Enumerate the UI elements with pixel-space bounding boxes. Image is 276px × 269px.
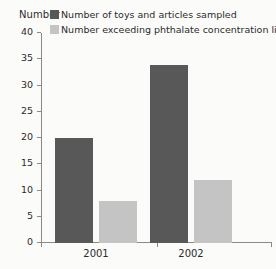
y-tick-label: 10 — [21, 184, 33, 195]
y-tick: 25 — [37, 111, 41, 112]
x-axis-label-2002: 2002 — [171, 248, 211, 259]
legend-label-sampled: Number of toys and articles sampled — [61, 9, 237, 20]
y-tick-label: 15 — [21, 157, 33, 168]
y-tick-label: 5 — [27, 210, 33, 221]
y-tick: 20 — [37, 137, 41, 138]
y-tick-label: 25 — [21, 105, 33, 116]
y-tick-label: 20 — [21, 131, 33, 142]
y-tick-label: 35 — [21, 52, 33, 63]
bar-chart: Number Number of toys and articles sampl… — [0, 0, 276, 269]
bar-2002-series2 — [194, 180, 232, 243]
x-tick — [157, 243, 158, 247]
chart-legend: Number of toys and articles sampled Numb… — [50, 8, 276, 35]
y-tick-label: 30 — [21, 79, 33, 90]
legend-item-sampled: Number of toys and articles sampled — [50, 8, 276, 20]
y-tick: 15 — [37, 163, 41, 164]
x-tick — [41, 243, 42, 247]
y-tick: 35 — [37, 58, 41, 59]
y-axis-line — [41, 33, 42, 243]
legend-swatch-dark-icon — [50, 10, 59, 19]
x-tick — [271, 243, 272, 247]
bar-2002-series1 — [150, 65, 188, 244]
y-tick: 40 — [37, 32, 41, 33]
y-tick: 10 — [37, 190, 41, 191]
bar-2001-series1 — [55, 138, 93, 243]
y-tick: 5 — [37, 216, 41, 217]
plot-area: 0510152025303540 — [41, 33, 272, 243]
y-tick: 30 — [37, 85, 41, 86]
x-axis-label-2001: 2001 — [76, 248, 116, 259]
y-tick-label: 40 — [21, 26, 33, 37]
y-tick-label: 0 — [27, 236, 33, 247]
bar-2001-series2 — [99, 201, 137, 243]
